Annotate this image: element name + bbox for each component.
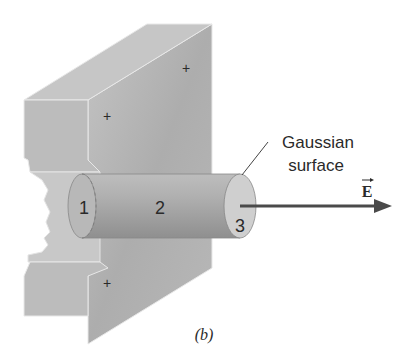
arrow-head-icon	[374, 199, 392, 213]
leader-line	[242, 142, 268, 175]
gaussian-label: Gaussian	[282, 133, 354, 152]
label-3: 3	[235, 216, 245, 236]
figure-caption: (b)	[195, 326, 214, 344]
surface-label: surface	[288, 156, 344, 175]
gaussian-cylinder: 1 2 3	[68, 174, 256, 238]
charge-plus: +	[103, 275, 111, 291]
charge-plus: +	[182, 60, 190, 76]
gaussian-surface-diagram: + + + 1 2 3 Gaussian surface E (b)	[0, 0, 408, 355]
field-label-E: E	[362, 183, 373, 200]
label-1: 1	[79, 198, 89, 218]
field-arrow: E	[240, 178, 392, 213]
charge-plus: +	[103, 108, 111, 124]
label-2: 2	[155, 198, 165, 218]
